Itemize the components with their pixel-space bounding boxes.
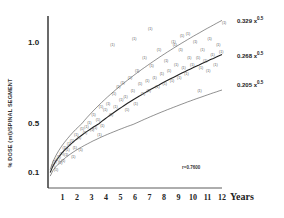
data-point: (1)	[148, 27, 152, 31]
data-point: (1)	[84, 125, 88, 129]
data-point: (1)	[173, 43, 177, 47]
x-tick: 7	[148, 193, 152, 202]
data-point: (1)	[106, 102, 110, 106]
data-point: (1)	[110, 43, 114, 47]
data-point: (1)	[190, 63, 194, 67]
data-point: (1)	[135, 69, 139, 73]
data-point: (1)	[65, 148, 69, 152]
data-point: (1)	[61, 159, 65, 163]
data-point: (1)	[100, 124, 104, 128]
data-point: (1)	[79, 148, 83, 152]
x-tick: 8	[162, 193, 166, 202]
data-point: (1)	[96, 118, 100, 122]
data-point: (1)	[222, 21, 226, 25]
data-point: (1)	[103, 108, 107, 112]
data-point: (1)	[125, 108, 129, 112]
data-point: (1)	[93, 126, 97, 130]
data-point: (1)	[219, 50, 223, 54]
x-tick: 5	[119, 193, 123, 202]
data-point: (1)	[54, 168, 58, 172]
data-point: (1)	[147, 89, 151, 93]
data-point: (1)	[160, 72, 164, 76]
data-point: (1)	[196, 56, 200, 60]
data-point: (1)	[157, 48, 161, 52]
data-point: (1)	[200, 48, 204, 52]
data-point: (1)	[145, 79, 149, 83]
data-point: (1)	[197, 89, 201, 93]
correlation-annotation: r=0.7600	[182, 165, 200, 170]
data-point: (1)	[199, 66, 203, 70]
data-point: (1)	[123, 95, 127, 99]
data-point: (1)	[216, 43, 220, 47]
data-point: (1)	[152, 76, 156, 80]
data-point: (1)	[142, 56, 146, 60]
data-point: (1)	[71, 155, 75, 159]
equation-upper: 0.329 x0.5	[237, 16, 263, 24]
data-point: (1)	[203, 59, 207, 63]
data-point: (1)	[163, 82, 167, 86]
data-point: (1)	[193, 40, 197, 44]
data-point: (1)	[213, 63, 217, 67]
data-point: (1)	[70, 139, 74, 143]
data-point: (1)	[138, 82, 142, 86]
data-point: (1)	[141, 92, 145, 96]
data-point: (1)	[116, 85, 120, 89]
data-point: (1)	[64, 153, 68, 157]
data-point: (1)	[128, 76, 132, 80]
data-point: (1)	[170, 79, 174, 83]
x-tick: 11	[204, 193, 212, 202]
data-point: (1)	[167, 69, 171, 73]
x-tick: 6	[133, 193, 137, 202]
equation-middle: 0.268 x0.5	[237, 51, 263, 59]
y-axis-label: % DOSE (ml)/SPINAL SEGMENT	[2, 58, 18, 188]
data-point: (1)	[97, 133, 101, 137]
y-tick-0-1: 0.1	[28, 168, 39, 177]
data-point: (1)	[210, 53, 214, 57]
data-point: (1)	[174, 63, 178, 67]
data-point: (1)	[186, 32, 190, 36]
x-tick: 12	[218, 193, 226, 202]
data-point: (1)	[179, 48, 183, 52]
data-point: (1)	[131, 89, 135, 93]
data-point: (1)	[134, 102, 138, 106]
data-point: (1)	[113, 105, 117, 109]
data-point: (1)	[187, 56, 191, 60]
data-point: (1)	[177, 76, 181, 80]
data-point: (1)	[112, 92, 116, 96]
x-tick: 4	[104, 193, 108, 202]
x-axis-label: Years	[230, 191, 254, 202]
data-point: (1)	[208, 37, 212, 41]
y-tick-1-0: 1.0	[28, 38, 39, 47]
data-point: (1)	[77, 136, 81, 140]
data-point: (1)	[180, 34, 184, 38]
x-tick: 1	[61, 193, 65, 202]
data-point: (1)	[155, 85, 159, 89]
data-point: (1)	[184, 72, 188, 76]
y-tick-0-5: 0.5	[28, 119, 39, 128]
data-point: (1)	[109, 113, 113, 117]
x-tick: 2	[75, 193, 79, 202]
data-point: (1)	[121, 81, 125, 85]
data-point: (1)	[181, 66, 185, 70]
data-point: (1)	[73, 146, 77, 150]
x-tick: 9	[177, 193, 181, 202]
data-point: (1)	[87, 121, 91, 125]
data-point: (1)	[132, 37, 136, 41]
data-point: (1)	[164, 59, 168, 63]
x-tick: 10	[189, 193, 197, 202]
data-point: (1)	[83, 131, 87, 135]
data-point: (1)	[150, 64, 154, 68]
data-point: (1)	[206, 69, 210, 73]
chart-plot-area: (1)(1)(1)(1)(1)(1)(1)(1)(1)(1)(1)(1)(1)(…	[0, 0, 284, 218]
data-point: (1)	[92, 113, 96, 117]
x-tick: 3	[90, 193, 94, 202]
equation-lower: 0.205 x0.5	[237, 80, 263, 88]
